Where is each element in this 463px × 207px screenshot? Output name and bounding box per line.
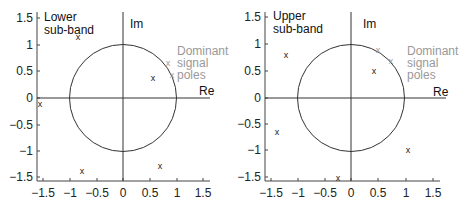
left-annotation: poles (177, 68, 206, 82)
right-xtick: 0 (348, 186, 355, 200)
right-re-label: Re (433, 85, 449, 99)
right-annotation: poles (407, 68, 436, 82)
right-title: sub-band (273, 22, 323, 36)
right-xtick: −0.5 (313, 186, 337, 200)
right-xtick: 0.5 (370, 186, 387, 200)
pole-marker: x (38, 99, 43, 109)
dominant-pole-marker: x (170, 70, 175, 80)
pole-marker: x (80, 166, 85, 176)
pole-marker: x (284, 50, 289, 60)
pole-marker: x (372, 66, 377, 76)
left-xtick: 0 (120, 186, 127, 200)
left-im-label: Im (130, 17, 143, 31)
pole-zero-figure: 1.5 1 0.5 0 −0.5 −1 −1.5 −1.5 −1 −0.5 0 … (0, 0, 463, 207)
left-chart: 1.5 1 0.5 0 −0.5 −1 −1.5 −1.5 −1 −0.5 0 … (9, 10, 229, 200)
left-ytick: 1.5 (16, 11, 33, 25)
left-xtick: 1.5 (195, 186, 212, 200)
left-xtick: −1.5 (31, 186, 55, 200)
left-ytick: 0 (26, 91, 33, 105)
right-ytick: 1.5 (244, 10, 261, 24)
pole-marker: x (275, 127, 280, 137)
right-ytick: 1 (254, 37, 261, 51)
right-title: Upper (273, 9, 306, 23)
right-xtick: 1.5 (425, 186, 442, 200)
left-title: Lower (44, 10, 77, 24)
pole-marker: x (336, 173, 341, 183)
right-ytick: 0.5 (244, 64, 261, 78)
right-xtick: −1.5 (259, 186, 283, 200)
left-ytick: −1.5 (9, 170, 33, 184)
left-re-label: Re (199, 84, 215, 98)
left-xtick: −1 (63, 186, 77, 200)
left-title: sub-band (44, 23, 94, 37)
right-xtick: −1 (291, 186, 305, 200)
left-xtick: 0.5 (142, 186, 159, 200)
right-chart: 1.5 1 0.5 0 −0.5 −1 −1.5 −1.5 −1 −0.5 0 … (237, 9, 459, 200)
left-ytick: −1 (19, 144, 33, 158)
left-ytick: −0.5 (9, 118, 33, 132)
pole-marker: x (151, 73, 156, 83)
right-ytick: 0 (254, 91, 261, 105)
dominant-pole-marker: x (389, 56, 394, 66)
right-im-label: Im (363, 17, 376, 31)
pole-marker: x (406, 145, 411, 155)
right-ytick: −1 (247, 143, 261, 157)
dominant-pole-marker: x (376, 45, 381, 55)
left-ytick: 1 (26, 38, 33, 52)
right-ytick: −0.5 (237, 117, 261, 131)
pole-marker: x (76, 32, 81, 42)
dominant-pole-marker: x (166, 58, 171, 68)
left-ytick: 0.5 (16, 64, 33, 78)
right-xtick: 1 (403, 186, 410, 200)
left-xtick: −0.5 (85, 186, 109, 200)
pole-marker: x (158, 161, 163, 171)
left-xtick: 1 (174, 186, 181, 200)
right-ytick: −1.5 (237, 170, 261, 184)
